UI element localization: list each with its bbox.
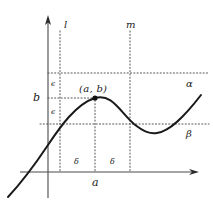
line-l-label: l	[64, 20, 67, 30]
function-curve	[8, 95, 201, 197]
delta-left-label: δ	[74, 158, 79, 166]
alpha-label: α	[186, 79, 193, 89]
axes-group	[20, 15, 199, 198]
line-m-label: m	[126, 20, 135, 30]
epsilon-delta-continuity-figure: l m b a ϵ ϵ δ δ (a, b) α β	[0, 0, 213, 208]
epsilon-lower-label: ϵ	[51, 108, 55, 116]
y-axis-value-b-label: b	[33, 92, 40, 103]
beta-label: β	[186, 129, 192, 139]
delta-right-label: δ	[110, 158, 115, 166]
marked-point-a-b	[92, 95, 97, 100]
vertical-dotted-lines-group	[60, 31, 130, 172]
epsilon-upper-label: ϵ	[51, 80, 55, 88]
point-a-b-label: (a, b)	[79, 84, 107, 94]
figure-canvas	[0, 0, 213, 208]
x-axis-value-a-label: a	[92, 177, 99, 188]
